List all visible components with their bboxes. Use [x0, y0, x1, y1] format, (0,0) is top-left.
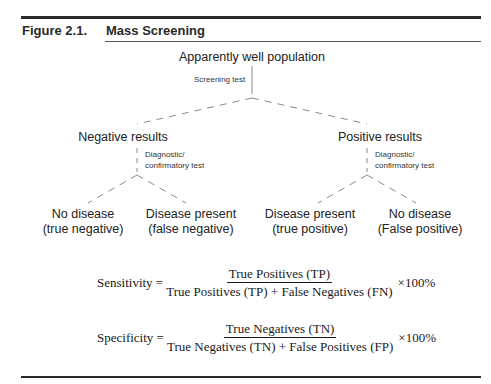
positive-diagnostic-label-line1: Diagnostic/: [375, 149, 415, 160]
specificity-fraction: True Negatives (TN) True Negatives (TN) …: [165, 321, 395, 354]
sensitivity-numerator: True Positives (TP): [227, 266, 332, 283]
positive-results-node: Positive results: [338, 130, 422, 145]
false-positive-node: No disease (False positive): [378, 207, 463, 237]
negative-branch-line: [137, 98, 252, 124]
sensitivity-denominator: True Positives (TP) + False Negatives (F…: [164, 283, 394, 299]
leaf-line2: (true positive): [265, 222, 355, 237]
specificity-lhs: Specificity =: [97, 330, 164, 346]
sensitivity-lhs: Sensitivity =: [97, 275, 163, 291]
true-negative-node: No disease (true negative): [43, 207, 124, 237]
true-negative-branch-line: [88, 175, 137, 203]
leaf-line1: No disease: [378, 207, 463, 222]
true-positive-node: Disease present (true positive): [265, 207, 355, 237]
positive-diagnostic-label-line2: confirmatory test: [375, 160, 434, 171]
sensitivity-formula: Sensitivity = True Positives (TP) True P…: [97, 266, 435, 299]
negative-results-node: Negative results: [78, 130, 168, 145]
leaf-line2: (False positive): [378, 222, 463, 237]
leaf-line1: Disease present: [265, 207, 355, 222]
leaf-line2: (false negative): [146, 222, 236, 237]
leaf-line1: No disease: [43, 207, 124, 222]
specificity-denominator: True Negatives (TN) + False Positives (F…: [165, 338, 395, 354]
sensitivity-fraction: True Positives (TP) True Positives (TP) …: [164, 266, 394, 299]
specificity-numerator: True Negatives (TN): [224, 321, 337, 338]
false-negative-node: Disease present (false negative): [146, 207, 236, 237]
false-positive-branch-line: [367, 175, 416, 203]
negative-diagnostic-label-line2: confirmatory test: [145, 160, 204, 171]
specificity-formula: Specificity = True Negatives (TN) True N…: [97, 321, 436, 354]
specificity-multiplier: ×100%: [398, 330, 436, 346]
negative-diagnostic-label-line1: Diagnostic/: [145, 149, 185, 160]
false-negative-branch-line: [137, 175, 186, 203]
sensitivity-multiplier: ×100%: [398, 275, 436, 291]
bottom-rule: [21, 376, 481, 378]
leaf-line1: Disease present: [146, 207, 236, 222]
leaf-line2: (true negative): [43, 222, 124, 237]
true-positive-branch-line: [318, 175, 367, 203]
positive-branch-line: [252, 98, 367, 124]
screening-test-label: Screening test: [194, 74, 245, 85]
root-node: Apparently well population: [179, 50, 325, 65]
